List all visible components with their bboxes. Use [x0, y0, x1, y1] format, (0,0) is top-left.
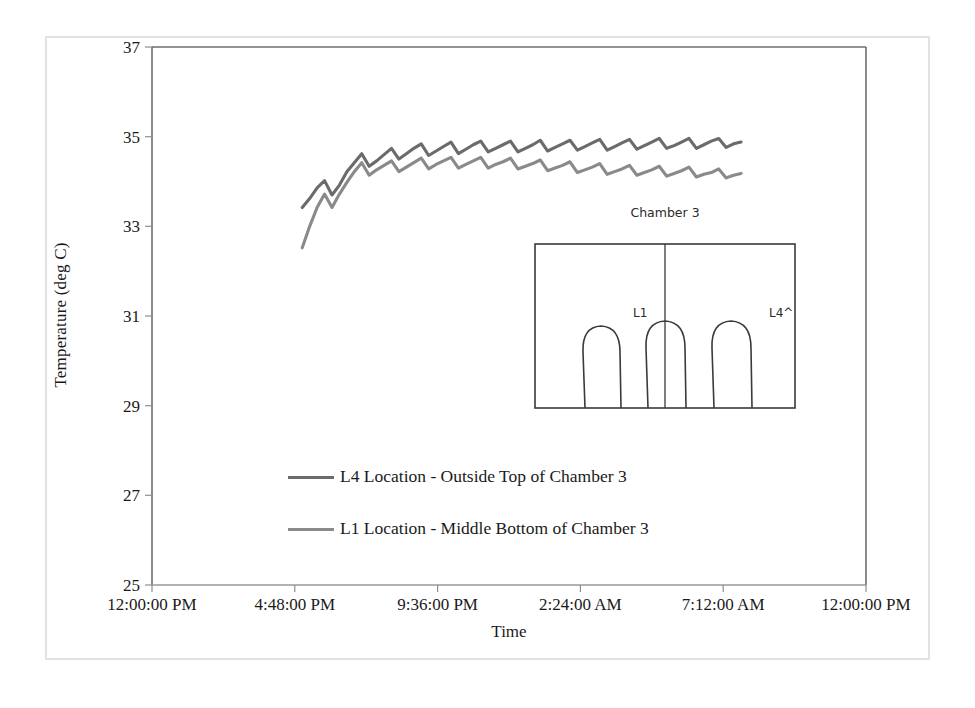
- inset-arch-left: [583, 326, 621, 408]
- x-tick-label-5: 12:00:00 PM: [786, 596, 946, 613]
- legend-item-l1: L1 Location - Middle Bottom of Chamber 3: [288, 518, 649, 539]
- inset-arch-right: [712, 321, 752, 408]
- inset-marker-l4: L4^: [769, 306, 793, 320]
- series-l1: [302, 157, 741, 248]
- x-tick-label-3: 2:24:00 AM: [500, 596, 660, 613]
- inset-marker-l1: L1: [633, 306, 647, 320]
- figure-page: 37 35 33 31 29 27 25 12:00:00 PM 4:48:00…: [0, 0, 975, 708]
- inset-arch-center: [646, 321, 686, 408]
- legend-label-l4: L4 Location - Outside Top of Chamber 3: [340, 466, 627, 487]
- x-tick-label-4: 7:12:00 AM: [643, 596, 803, 613]
- x-tick-label-2: 9:36:00 PM: [358, 596, 518, 613]
- y-axis-ticks: [145, 47, 152, 585]
- x-axis-ticks: [152, 585, 866, 592]
- y-axis-title: Temperature (deg C): [51, 205, 71, 425]
- y-tick-label-37: 37: [96, 39, 140, 56]
- plot-frame: [152, 47, 866, 585]
- legend-label-l1: L1 Location - Middle Bottom of Chamber 3: [340, 518, 649, 539]
- inset-diagram: [535, 244, 795, 408]
- y-tick-label-25: 25: [96, 577, 140, 594]
- legend-swatch-l4: [288, 476, 334, 479]
- inset-title: Chamber 3: [565, 205, 765, 220]
- y-tick-label-31: 31: [96, 308, 140, 325]
- x-axis-title: Time: [152, 622, 866, 642]
- legend-swatch-l1: [288, 528, 334, 531]
- x-tick-label-1: 4:48:00 PM: [215, 596, 375, 613]
- y-tick-label-27: 27: [96, 487, 140, 504]
- y-tick-label-35: 35: [96, 129, 140, 146]
- legend-item-l4: L4 Location - Outside Top of Chamber 3: [288, 466, 627, 487]
- y-tick-label-29: 29: [96, 398, 140, 415]
- y-tick-label-33: 33: [96, 218, 140, 235]
- x-tick-label-0: 12:00:00 PM: [72, 596, 232, 613]
